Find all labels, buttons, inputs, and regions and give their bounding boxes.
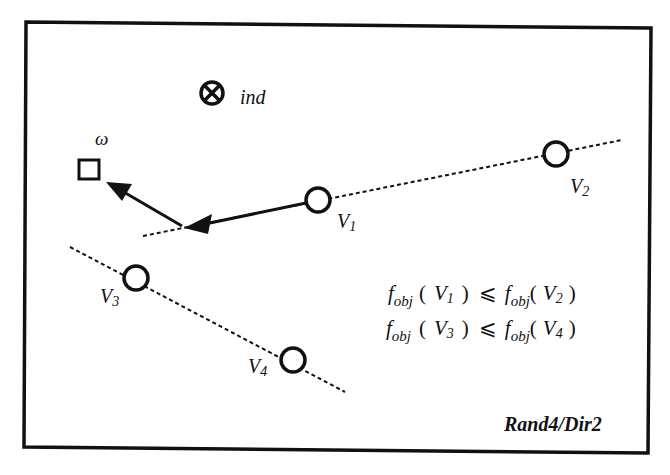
omega-label: ω bbox=[95, 128, 108, 149]
point-v2-label: V2 bbox=[570, 175, 589, 199]
point-v1-label: V1 bbox=[337, 210, 356, 234]
arrow-to-omega bbox=[106, 182, 182, 226]
point-v4-label: V4 bbox=[248, 355, 267, 379]
formula-2: fobj(V3)⩽fobj(V4) bbox=[386, 316, 576, 344]
point-v3-label: V3 bbox=[100, 285, 119, 309]
arrow-v1-to-line bbox=[184, 203, 306, 234]
strategy-label: Rand4/Dir2 bbox=[503, 413, 602, 435]
point-v2-circle-icon bbox=[544, 142, 568, 166]
point-v4-circle-icon bbox=[281, 348, 305, 372]
direction-line-v3-v4 bbox=[70, 247, 345, 392]
formula-1: fobj(V1)⩽fobj(V2) bbox=[388, 281, 576, 309]
individual-label: ind bbox=[240, 86, 267, 108]
individual-otimes-icon bbox=[201, 82, 223, 104]
point-v3-circle-icon bbox=[124, 266, 148, 290]
omega-square-icon bbox=[79, 160, 99, 179]
point-v1-circle-icon bbox=[306, 188, 330, 212]
diagram-canvas: ind ω V1 V2 V3 V4 fobj(V1)⩽fobj(V2) fobj… bbox=[0, 0, 670, 475]
